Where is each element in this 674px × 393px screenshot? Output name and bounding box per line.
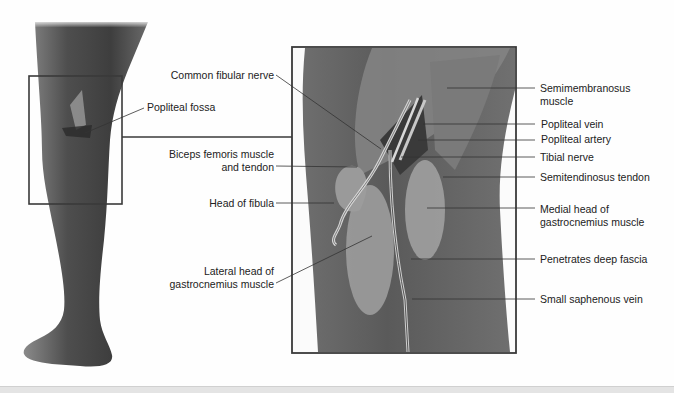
label-line: and tendon — [169, 161, 274, 174]
label-medial-gastrocnemius: Medial head of gastrocnemius muscle — [540, 203, 644, 228]
label-common-fibular-nerve: Common fibular nerve — [171, 69, 274, 82]
leg-overview — [24, 20, 150, 367]
label-head-of-fibula: Head of fibula — [209, 197, 274, 210]
label-line: muscle — [540, 95, 630, 108]
label-lateral-gastrocnemius: Lateral head of gastrocnemius muscle — [170, 265, 274, 290]
label-popliteal-fossa: Popliteal fossa — [147, 101, 215, 114]
label-line: Lateral head of — [170, 265, 274, 278]
label-line: Semimembranosus — [540, 82, 630, 95]
label-biceps-femoris: Biceps femoris muscle and tendon — [169, 148, 274, 173]
knee-detail — [293, 48, 515, 352]
label-line: gastrocnemius muscle — [540, 216, 644, 229]
label-semimembranosus: Semimembranosus muscle — [540, 82, 630, 107]
label-line: gastrocnemius muscle — [170, 278, 274, 291]
bottom-edge — [0, 386, 674, 393]
label-line: Biceps femoris muscle — [169, 148, 274, 161]
label-penetrates-fascia: Penetrates deep fascia — [540, 253, 647, 266]
label-semitendinosus: Semitendinosus tendon — [540, 171, 650, 184]
label-small-saphenous: Small saphenous vein — [540, 293, 643, 306]
label-popliteal-artery: Popliteal artery — [541, 133, 611, 146]
label-tibial-nerve: Tibial nerve — [540, 151, 594, 164]
label-line: Medial head of — [540, 203, 644, 216]
label-popliteal-vein: Popliteal vein — [541, 118, 603, 131]
